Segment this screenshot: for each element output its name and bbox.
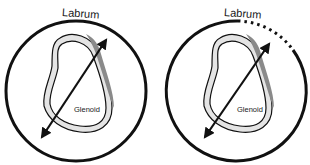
torn-labrum-diagram: Labrum Glenoid	[166, 6, 306, 161]
labrum-label: Labrum	[224, 6, 262, 21]
glenoid-label: Glenoid	[237, 105, 263, 114]
labrum-diagram-canvas: Labrum Glenoid Labrum Glenoid	[0, 0, 310, 165]
labrum-label: Labrum	[62, 6, 100, 21]
intact-labrum-diagram: Labrum Glenoid	[6, 6, 146, 161]
glenoid-shape	[204, 34, 274, 132]
glenoid-label: Glenoid	[74, 105, 100, 114]
